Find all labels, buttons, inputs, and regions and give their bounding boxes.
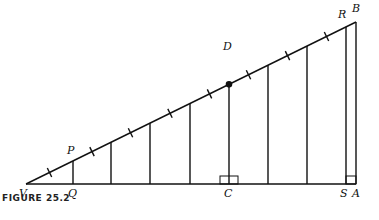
label-P: P bbox=[66, 144, 75, 157]
figure-caption: FIGURE 25.2 bbox=[2, 193, 70, 203]
label-B: B bbox=[351, 2, 360, 15]
right-angle-mark-A bbox=[346, 176, 356, 184]
label-R: R bbox=[337, 8, 346, 21]
label-S: S bbox=[340, 187, 348, 200]
geometry bbox=[26, 22, 356, 184]
label-A: A bbox=[351, 187, 360, 200]
triangle-diagram: VQCSAPDRB FIGURE 25.2 bbox=[0, 0, 379, 220]
label-D: D bbox=[222, 40, 232, 53]
point-D-dot bbox=[226, 82, 231, 87]
label-C: C bbox=[224, 187, 233, 200]
